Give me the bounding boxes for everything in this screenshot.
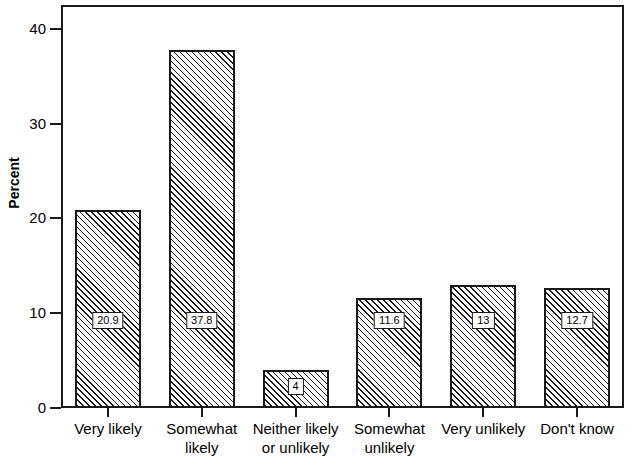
y-tick-mark	[50, 28, 61, 30]
bar-value-label: 4	[288, 378, 304, 395]
bar: 12.7	[544, 288, 610, 408]
x-axis-label: Somewhat likely	[155, 419, 249, 457]
bar: 4	[263, 370, 329, 408]
bar-value-label: 12.7	[561, 312, 592, 329]
x-tick-mark	[576, 408, 578, 417]
x-axis-label: Neither likely or unlikely	[249, 419, 343, 457]
bar-value-label: 13	[472, 312, 494, 329]
y-tick-mark	[50, 312, 61, 314]
y-tick-label: 0	[0, 398, 46, 417]
x-tick-mark	[107, 408, 109, 417]
x-tick-mark	[482, 408, 484, 417]
bar-value-label: 11.6	[374, 312, 405, 329]
y-tick-label: 10	[0, 303, 46, 322]
plot-frame	[61, 5, 624, 408]
bar-value-label: 37.8	[186, 312, 217, 329]
x-axis-label: Very likely	[61, 419, 155, 438]
bar-chart: Percent 010203040 20.937.8411.61312.7 Ve…	[0, 0, 642, 471]
y-tick-label: 20	[0, 208, 46, 227]
x-axis-label: Very unlikely	[436, 419, 530, 438]
bar: 20.9	[75, 210, 141, 408]
y-tick-label: 30	[0, 114, 46, 133]
bar: 13	[450, 285, 516, 408]
x-tick-mark	[201, 408, 203, 417]
y-tick-mark	[50, 123, 61, 125]
y-tick-label: 40	[0, 19, 46, 38]
x-axis-label: Don't know	[530, 419, 624, 438]
x-axis-label: Somewhat unlikely	[343, 419, 437, 457]
bar: 11.6	[356, 298, 422, 408]
y-tick-mark	[50, 217, 61, 219]
bar: 37.8	[169, 50, 235, 408]
x-tick-mark	[388, 408, 390, 417]
y-tick-mark	[50, 407, 61, 409]
x-tick-mark	[295, 408, 297, 417]
bar-value-label: 20.9	[92, 312, 123, 329]
